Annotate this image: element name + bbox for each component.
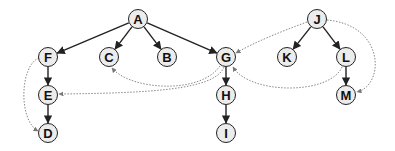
node-J: J xyxy=(307,9,327,29)
node-D: D xyxy=(38,123,58,143)
dotted-edge-G-E xyxy=(59,67,224,94)
node-B: B xyxy=(157,47,177,67)
edge-J-K xyxy=(293,27,311,49)
node-K: K xyxy=(277,47,297,67)
edge-A-C xyxy=(115,27,132,49)
dotted-edge-L-G xyxy=(233,67,342,88)
node-E: E xyxy=(38,85,58,105)
node-H: H xyxy=(216,85,236,105)
node-C: C xyxy=(99,47,119,67)
dotted-edge-J-G xyxy=(236,22,307,53)
node-M: M xyxy=(336,85,356,105)
dotted-edges xyxy=(24,20,375,131)
node-F: F xyxy=(38,47,58,67)
edge-A-F xyxy=(57,23,129,53)
node-G: G xyxy=(216,47,236,67)
dotted-edge-F-D xyxy=(24,58,39,131)
node-L: L xyxy=(336,47,356,67)
edge-A-G xyxy=(147,23,217,53)
edge-A-B xyxy=(144,27,161,49)
dotted-edge-G-C xyxy=(112,66,220,86)
edge-J-L xyxy=(323,27,340,49)
solid-edges xyxy=(48,23,346,123)
node-I: I xyxy=(216,123,236,143)
edges-layer xyxy=(0,0,395,151)
graph-diagram: AFCBGJKLEHMDI xyxy=(0,0,395,151)
node-A: A xyxy=(128,9,148,29)
